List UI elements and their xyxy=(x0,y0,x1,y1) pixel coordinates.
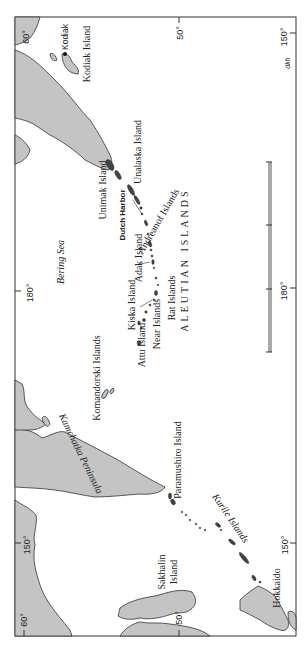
label-150-left: 150° xyxy=(22,535,32,554)
afognak-island xyxy=(50,53,57,60)
label-sakhalin-island: Island xyxy=(168,560,179,584)
label-komandorski-islands: Komandorski Islands xyxy=(91,335,102,420)
label-rat-islands: Rat Islands xyxy=(166,276,177,321)
label-sakhalin: Sakhalin xyxy=(156,555,167,590)
scale-bar xyxy=(266,162,272,352)
label-adak-island: Adak Island xyxy=(133,234,144,283)
label-dutch-harbor: Dutch Harbor xyxy=(118,189,127,240)
label-kodiak-island: Kodiak Island xyxy=(81,26,92,82)
alaska-bay-land xyxy=(15,135,30,164)
label-150-right: 150° xyxy=(280,535,290,554)
label-unalaska-island: Unalaska Island xyxy=(132,120,143,184)
label-180-right: 180° xyxy=(279,281,289,300)
label-paramushiro-island: Paramushiro Island xyxy=(172,421,183,499)
honshu-tip xyxy=(288,611,296,630)
label-60-bottom: 60° xyxy=(19,613,29,627)
kodiak-city-dot xyxy=(63,52,67,56)
label-unimak-island: Unimak Island xyxy=(97,160,108,219)
label-60-top: 60° xyxy=(21,30,31,44)
label-hokkaido: Hokkaido xyxy=(271,568,282,607)
label-kiska-island: Kiska Island xyxy=(126,280,137,330)
label-near-islands: Near Islands xyxy=(151,299,162,349)
label-180-left: 180° xyxy=(25,283,35,302)
komandorski-island-2 xyxy=(109,388,115,395)
kamchatka-north xyxy=(15,380,46,430)
label-50-bottom: 50° xyxy=(174,611,184,625)
label-150-top-right: 150° xyxy=(279,27,289,46)
asia-mainland-bottom xyxy=(120,622,210,636)
label-attu-island: Attu Island xyxy=(136,323,147,368)
label-credit: dkh xyxy=(284,57,291,68)
label-bering-sea: Bering Sea xyxy=(55,240,66,284)
label-aleutian-islands: ALEUTIAN ISLANDS xyxy=(179,188,190,331)
label-kodiak: Kodiak xyxy=(60,23,70,50)
aleutian-map: 60° Kodiak Kodiak Island 50° 150° dkh Un… xyxy=(0,0,308,653)
label-kurile-islands: Kurile Islands xyxy=(210,491,252,545)
label-50-top: 50° xyxy=(175,26,185,40)
komandorski-island-1 xyxy=(101,389,109,400)
kodiak-island-shape xyxy=(62,53,79,74)
